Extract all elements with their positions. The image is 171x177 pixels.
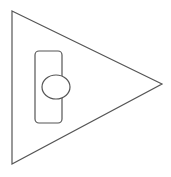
ellipse (42, 75, 70, 99)
diagram-canvas (0, 0, 171, 177)
